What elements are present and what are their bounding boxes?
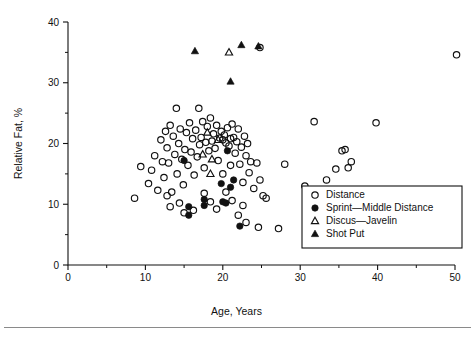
marker-open-circle xyxy=(244,140,250,146)
y-tick-label: 40 xyxy=(48,17,60,28)
marker-open-circle xyxy=(201,165,207,171)
marker-open-circle xyxy=(240,179,246,185)
marker-open-circle xyxy=(246,169,252,175)
x-tick-label: 30 xyxy=(295,272,307,283)
marker-open-triangle xyxy=(208,155,215,161)
figure-container: 01020304001020304050 Age, YearsRelative … xyxy=(0,0,475,341)
marker-open-circle xyxy=(203,139,209,145)
marker-open-circle xyxy=(275,225,281,231)
marker-filled-circle xyxy=(186,212,192,218)
marker-filled-circle xyxy=(230,177,236,183)
marker-open-circle xyxy=(170,133,176,139)
legend-entry[interactable]: Sprint—Middle Distance xyxy=(312,202,434,213)
marker-open-circle xyxy=(238,144,244,150)
marker-open-circle xyxy=(188,149,194,155)
marker-open-circle xyxy=(151,152,157,158)
marker-open-circle xyxy=(196,142,202,148)
marker-open-circle xyxy=(172,151,178,157)
marker-open-circle xyxy=(348,159,354,165)
marker-filled-circle xyxy=(227,184,233,190)
marker-open-circle xyxy=(251,185,257,191)
marker-open-circle xyxy=(182,146,188,152)
marker-open-circle xyxy=(227,162,233,168)
marker-open-circle xyxy=(180,182,186,188)
marker-open-circle xyxy=(173,105,179,111)
marker-open-circle xyxy=(189,135,195,141)
marker-open-circle xyxy=(209,138,215,144)
marker-open-circle xyxy=(175,140,181,146)
marker-open-circle xyxy=(232,150,238,156)
marker-open-circle xyxy=(167,122,173,128)
x-tick-label: 0 xyxy=(65,272,71,283)
marker-open-circle xyxy=(235,212,241,218)
series-filled-circle xyxy=(181,148,243,230)
marker-open-circle xyxy=(207,199,213,205)
marker-filled-triangle xyxy=(238,41,245,47)
marker-open-circle xyxy=(165,160,171,166)
y-tick-label: 0 xyxy=(53,260,59,271)
y-tick-label: 20 xyxy=(48,138,60,149)
marker-filled-circle xyxy=(181,157,187,163)
marker-open-circle xyxy=(229,197,235,203)
marker-open-circle xyxy=(243,152,249,158)
marker-open-circle xyxy=(220,171,226,177)
y-tick-label: 30 xyxy=(48,77,60,88)
marker-open-circle xyxy=(213,122,219,128)
marker-open-circle xyxy=(282,161,288,167)
marker-filled-circle xyxy=(201,196,207,202)
marker-open-circle xyxy=(207,115,213,121)
marker-open-circle xyxy=(257,177,263,183)
x-tick-label: 20 xyxy=(217,272,229,283)
marker-open-circle xyxy=(183,129,189,135)
marker-open-circle xyxy=(164,193,170,199)
marker-open-circle xyxy=(240,202,246,208)
marker-filled-circle xyxy=(223,200,229,206)
marker-open-circle xyxy=(138,163,144,169)
legend-entry-label: Sprint—Middle Distance xyxy=(326,202,434,213)
series-open-triangle xyxy=(199,49,233,177)
marker-open-triangle xyxy=(204,129,211,135)
marker-open-circle xyxy=(164,145,170,151)
legend-entry-label: Discus—Javelin xyxy=(326,215,397,226)
marker-open-circle xyxy=(145,180,151,186)
marker-open-circle xyxy=(177,126,183,132)
marker-open-circle xyxy=(345,165,351,171)
marker-open-triangle xyxy=(225,49,232,55)
marker-open-circle xyxy=(215,157,221,163)
marker-open-circle xyxy=(373,120,379,126)
marker-open-circle xyxy=(241,133,247,139)
marker-filled-triangle xyxy=(227,78,234,84)
marker-filled-triangle xyxy=(255,43,262,49)
marker-open-circle xyxy=(176,200,182,206)
marker-open-circle xyxy=(148,167,154,173)
marker-open-circle xyxy=(131,195,137,201)
x-tick-label: 40 xyxy=(372,272,384,283)
marker-open-circle xyxy=(193,127,199,133)
marker-open-circle xyxy=(247,159,253,165)
marker-open-circle xyxy=(213,206,219,212)
marker-filled-circle xyxy=(224,148,230,154)
marker-open-triangle xyxy=(207,170,214,176)
marker-filled-circle xyxy=(186,203,192,209)
marker-open-circle xyxy=(237,161,243,167)
legend: DistanceSprint—Middle DistanceDiscus—Jav… xyxy=(302,186,462,248)
marker-filled-circle xyxy=(237,223,243,229)
marker-filled-circle xyxy=(218,180,224,186)
marker-open-circle xyxy=(162,128,168,134)
marker-open-circle xyxy=(158,137,164,143)
marker-open-circle xyxy=(255,224,261,230)
marker-open-circle xyxy=(254,160,260,166)
marker-open-circle xyxy=(196,105,202,111)
scatter-plot: 01020304001020304050 Age, YearsRelative … xyxy=(0,0,475,341)
y-axis-title: Relative Fat, % xyxy=(12,108,24,179)
marker-open-circle xyxy=(235,126,241,132)
x-tick-label: 50 xyxy=(449,272,461,283)
marker-filled-triangle xyxy=(191,47,198,53)
marker-open-circle xyxy=(311,118,317,124)
series-filled-triangle xyxy=(191,41,262,84)
legend-entry-label: Shot Put xyxy=(326,228,365,239)
marker-open-circle xyxy=(453,52,459,58)
x-axis-title: Age, Years xyxy=(211,305,262,317)
marker-open-circle xyxy=(210,131,216,137)
marker-open-circle xyxy=(206,148,212,154)
